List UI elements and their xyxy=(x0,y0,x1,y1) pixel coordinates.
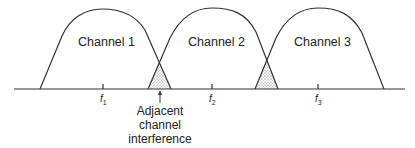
channel-1-curve xyxy=(40,9,171,89)
spectrum-diagram xyxy=(0,0,415,148)
freq-label-f1: f1 xyxy=(100,93,107,106)
freq-label-f3: f3 xyxy=(315,93,322,106)
annotation-arrow-head-icon xyxy=(158,90,162,95)
interference-region-2-3 xyxy=(255,59,278,89)
annotation-line-1: Adjacent xyxy=(115,104,205,118)
annotation-line-3: interference xyxy=(115,132,205,146)
channel-2-label: Channel 2 xyxy=(188,35,245,49)
adjacent-channel-interference-label: Adjacent channel interference xyxy=(115,104,205,146)
interference-region-1-2 xyxy=(148,64,171,89)
freq-label-f2: f2 xyxy=(209,93,216,106)
annotation-line-2: channel xyxy=(115,118,205,132)
channel-3-label: Channel 3 xyxy=(294,35,351,49)
channel-1-label: Channel 1 xyxy=(78,35,135,49)
